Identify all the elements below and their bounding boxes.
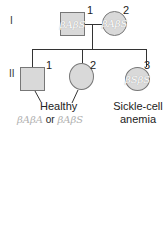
healthy-genotypes: βAβA or βAβS <box>17 114 83 125</box>
sickle-text: Sickle-cell <box>112 100 164 113</box>
anemia-text: anemia <box>112 113 164 126</box>
genotype-aa: βAβA <box>17 114 43 125</box>
genotype-as: βAβS <box>57 114 83 125</box>
healthy-label: Healthy <box>40 100 77 113</box>
sickle-cell-label: Sickle-cell anemia <box>112 100 164 126</box>
or-text: or <box>46 114 55 125</box>
